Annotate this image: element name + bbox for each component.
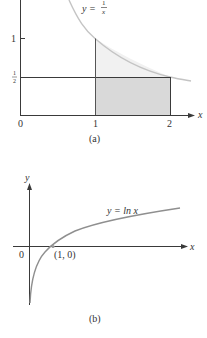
curve-label-y: y =: [81, 3, 96, 14]
tick-label-y-half-den: 2: [13, 78, 16, 84]
tick-label-y-half-num: 1: [13, 70, 16, 76]
y-axis-arrow-icon: [27, 183, 32, 190]
tick-label-x-2: 2: [167, 118, 172, 129]
caption-b: (b): [89, 313, 101, 325]
curve-label-ln: y = ln x: [106, 205, 138, 216]
x-axis-arrow-icon: [188, 113, 195, 118]
shaded-rectangle: [95, 77, 170, 115]
x-axis-arrow-icon: [181, 244, 188, 249]
curve-ln-x: [30, 208, 180, 303]
point-label: (1, 0): [54, 249, 76, 261]
point-1-0: [51, 245, 54, 248]
axis-label-y-b: y: [24, 172, 30, 183]
figure: y = 1 x 1 1 2 0 1 2 x (a) y x 0 (1, 0) y…: [0, 0, 207, 338]
caption-a: (a): [89, 133, 100, 145]
curve-label-den: x: [101, 8, 106, 16]
tick-label-x-0: 0: [18, 118, 23, 129]
tick-label-y-1: 1: [11, 33, 16, 44]
curve-label-num: 1: [102, 0, 106, 7]
panel-a: y = 1 x 1 1 2 0 1 2 x (a): [11, 0, 203, 145]
tick-label-x-1: 1: [93, 118, 98, 129]
axis-label-x-a: x: [197, 109, 203, 120]
axis-label-x-b: x: [189, 241, 195, 252]
panel-b: y x 0 (1, 0) y = ln x (b): [13, 172, 195, 325]
origin-label: 0: [19, 249, 24, 260]
